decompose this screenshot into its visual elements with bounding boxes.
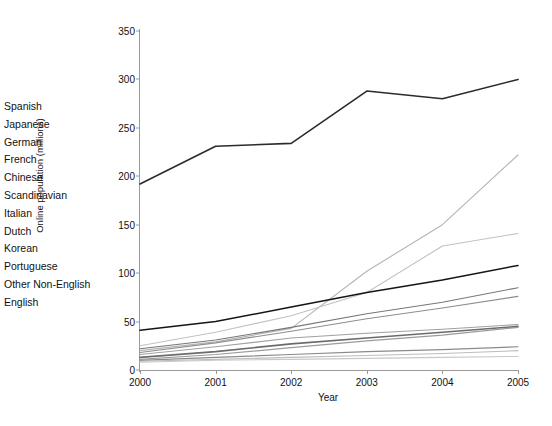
legend-item-chinese: Chinese <box>4 169 108 187</box>
series-line-scandinavian <box>140 324 518 354</box>
x-tick-mark <box>291 370 292 374</box>
chart-screenshot: SpanishJapaneseGermanFrenchChineseScandi… <box>0 0 552 426</box>
x-tick-mark <box>518 370 519 374</box>
y-tick-mark <box>136 127 140 128</box>
x-tick-label: 2004 <box>431 377 453 388</box>
y-tick-label: 250 <box>118 122 135 133</box>
legend-item-other-non-english: Other Non-English <box>4 276 108 294</box>
y-tick-label: 350 <box>118 26 135 37</box>
x-tick-label: 2001 <box>204 377 226 388</box>
x-tick-mark <box>140 370 141 374</box>
legend-item-korean: Korean <box>4 240 108 258</box>
x-tick-label: 2005 <box>507 377 529 388</box>
y-tick-label: 150 <box>118 219 135 230</box>
plot-area: 0501001502002503003502000200120022003200… <box>140 31 518 370</box>
y-tick-label: 100 <box>118 268 135 279</box>
y-axis-label: Online population (millions) <box>34 96 45 256</box>
legend-item-portuguese: Portuguese <box>4 258 108 276</box>
y-tick-mark <box>136 273 140 274</box>
y-tick-mark <box>136 79 140 80</box>
y-tick-mark <box>136 321 140 322</box>
series-line-japanese <box>140 233 518 345</box>
series-line-spanish <box>140 155 518 351</box>
x-tick-mark <box>367 370 368 374</box>
legend-item-french: French <box>4 151 108 169</box>
legend-item-dutch: Dutch <box>4 223 108 241</box>
y-tick-mark <box>136 224 140 225</box>
series-line-dutch <box>140 327 518 359</box>
x-tick-label: 2000 <box>129 377 151 388</box>
legend-item-english: English <box>4 294 108 312</box>
x-tick-mark <box>442 370 443 374</box>
chart-legend: SpanishJapaneseGermanFrenchChineseScandi… <box>4 98 108 312</box>
series-line-french <box>140 288 518 349</box>
x-tick-label: 2003 <box>356 377 378 388</box>
y-tick-label: 200 <box>118 171 135 182</box>
series-line-english <box>140 79 518 184</box>
legend-item-scandinavian: Scandinavian <box>4 187 108 205</box>
legend-item-german: German <box>4 134 108 152</box>
x-tick-mark <box>216 370 217 374</box>
x-axis-line <box>139 370 519 371</box>
legend-item-italian: Italian <box>4 205 108 223</box>
y-tick-label: 300 <box>118 74 135 85</box>
y-tick-label: 0 <box>129 365 135 376</box>
y-tick-mark <box>136 176 140 177</box>
series-lines <box>140 31 518 370</box>
x-axis-label: Year <box>128 392 528 403</box>
x-tick-label: 2002 <box>280 377 302 388</box>
legend-item-spanish: Spanish <box>4 98 108 116</box>
legend-item-japanese: Japanese <box>4 116 108 134</box>
y-tick-mark <box>136 31 140 32</box>
y-tick-label: 50 <box>124 316 135 327</box>
